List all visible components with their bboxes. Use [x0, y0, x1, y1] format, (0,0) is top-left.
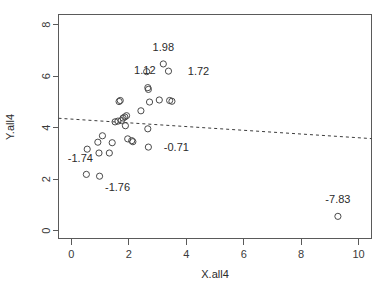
data-point-label: -1.74	[68, 152, 93, 164]
data-point	[165, 68, 171, 74]
x-axis-title: X.all4	[201, 268, 229, 280]
x-tick-label: 10	[352, 248, 364, 260]
data-point	[83, 171, 89, 177]
y-tick-label: 6	[41, 73, 53, 79]
data-point	[96, 150, 102, 156]
y-tick-label: 4	[41, 125, 53, 131]
data-point-label: -0.71	[164, 141, 189, 153]
data-point	[96, 173, 102, 179]
data-point	[156, 97, 162, 103]
x-tick-label: 6	[241, 248, 247, 260]
y-tick-label: 8	[41, 22, 53, 28]
data-point-label: -7.83	[325, 193, 350, 205]
data-point	[146, 99, 152, 105]
data-point	[95, 139, 101, 145]
data-point	[106, 150, 112, 156]
y-tick-label: 2	[41, 176, 53, 182]
x-tick-label: 2	[126, 248, 132, 260]
data-point-label: 1.12	[134, 64, 155, 76]
x-tick-label: 0	[68, 248, 74, 260]
data-point	[335, 213, 341, 219]
scatter-plot-figure: 0246810 02468 -1.74-1.76-0.711.121.981.7…	[0, 0, 389, 289]
data-point	[99, 133, 105, 139]
data-point	[160, 61, 166, 67]
scatter-plot-screenshot: 0246810 02468 -1.74-1.76-0.711.121.981.7…	[0, 0, 389, 289]
data-point	[84, 146, 90, 152]
data-point-label: 1.98	[153, 41, 174, 53]
x-tick-label: 4	[183, 248, 189, 260]
y-tick-label: 0	[41, 228, 53, 234]
data-point	[145, 126, 151, 132]
x-tick-label: 8	[298, 248, 304, 260]
point-labels-group: -1.74-1.76-0.711.121.981.72-7.83	[68, 41, 351, 205]
data-point	[138, 108, 144, 114]
x-axis-ticks: 0246810	[68, 239, 364, 260]
data-point-label: -1.76	[105, 181, 130, 193]
data-point	[109, 140, 115, 146]
data-points-group	[83, 61, 341, 220]
data-point	[145, 144, 151, 150]
y-axis-title: Y.all4	[4, 114, 16, 140]
y-axis-ticks: 02468	[41, 22, 59, 234]
data-point-label: 1.72	[188, 65, 209, 77]
data-point	[122, 123, 128, 129]
